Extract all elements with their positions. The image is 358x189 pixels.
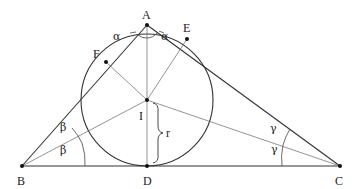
label-e: E bbox=[183, 21, 190, 35]
point-i bbox=[145, 98, 149, 102]
angle-arc-a-left bbox=[138, 35, 147, 38]
angle-alpha-right: α bbox=[161, 30, 169, 43]
point-d bbox=[145, 164, 149, 168]
label-c: C bbox=[335, 174, 343, 188]
angle-arc-c-lower bbox=[282, 145, 283, 166]
angle-arc-b-lower bbox=[82, 143, 85, 166]
side-ac bbox=[147, 25, 340, 166]
angle-tick-a-left bbox=[130, 32, 136, 33]
bisector-c bbox=[147, 100, 340, 166]
label-r: r bbox=[166, 126, 170, 140]
side-ab bbox=[22, 25, 147, 166]
point-e bbox=[185, 37, 189, 41]
radius-if bbox=[106, 62, 147, 100]
angle-arc-c-upper bbox=[283, 129, 290, 145]
point-f bbox=[104, 60, 108, 64]
radius-ie bbox=[147, 39, 187, 100]
point-b bbox=[20, 164, 24, 168]
label-i: I bbox=[139, 109, 143, 123]
label-b: B bbox=[17, 174, 25, 188]
label-a: A bbox=[142, 8, 151, 22]
angle-gamma-lower: γ bbox=[271, 143, 278, 156]
angle-beta-lower: β bbox=[60, 144, 66, 157]
angle-gamma-upper: γ bbox=[270, 122, 277, 135]
incircle-diagram: A B C D E F I r α α β β γ γ bbox=[0, 0, 358, 189]
point-a bbox=[145, 23, 149, 27]
point-c bbox=[338, 164, 342, 168]
angle-alpha-left: α bbox=[113, 30, 121, 43]
angle-beta-upper: β bbox=[60, 121, 66, 134]
label-d: D bbox=[143, 174, 152, 188]
label-f: F bbox=[93, 47, 100, 61]
radius-brace bbox=[153, 103, 163, 163]
